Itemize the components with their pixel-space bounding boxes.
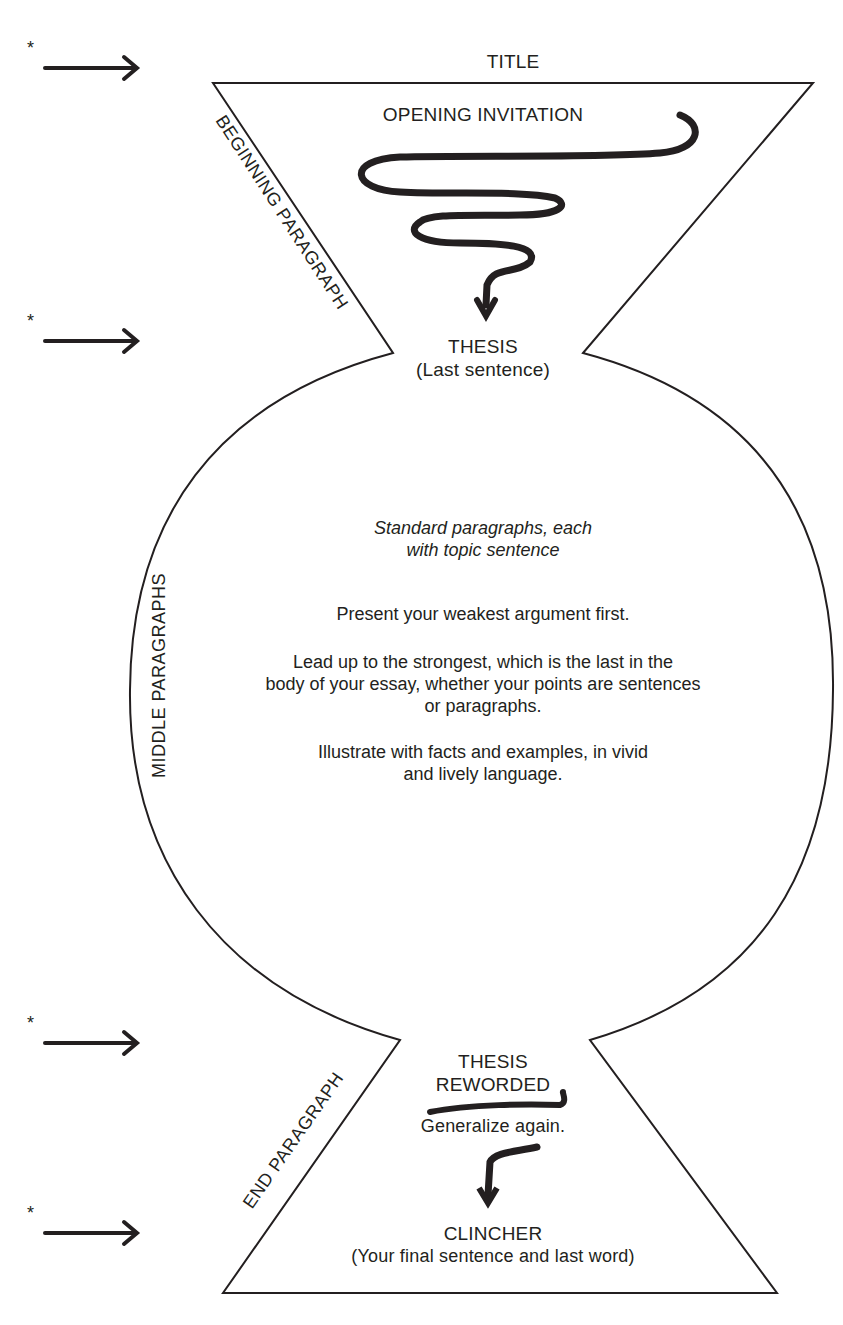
clincher-note: (Your final sentence and last word) <box>283 1245 703 1268</box>
opening-squiggle-arrow <box>361 115 695 305</box>
thesis-note: (Last sentence) <box>383 358 583 381</box>
thesis-reworded-label-2: REWORDED <box>393 1073 593 1096</box>
marker-asterisk: * <box>27 1013 34 1034</box>
middle-line-strongest: Lead up to the strongest, which is the l… <box>213 651 753 717</box>
title-label: TITLE <box>413 50 613 73</box>
thesis-label: THESIS <box>383 335 583 358</box>
middle-paragraphs-side-label: MIDDLE PARAGRAPHS <box>149 573 170 778</box>
marker-asterisk: * <box>27 38 34 59</box>
middle-line-weakest: Present your weakest argument first. <box>233 603 733 625</box>
generalize-label: Generalize again. <box>383 1115 603 1138</box>
marker-asterisk: * <box>27 311 34 332</box>
middle-line-illustrate: Illustrate with facts and examples, in v… <box>233 741 733 785</box>
middle-line-topic: Standard paragraphs, each with topic sen… <box>283 517 683 561</box>
thesis-reworded-label-1: THESIS <box>393 1050 593 1073</box>
opening-invitation-label: OPENING INVITATION <box>333 103 633 126</box>
clincher-label: CLINCHER <box>393 1222 593 1245</box>
marker-asterisk: * <box>27 1203 34 1224</box>
marker-arrow-icon <box>45 57 137 1244</box>
